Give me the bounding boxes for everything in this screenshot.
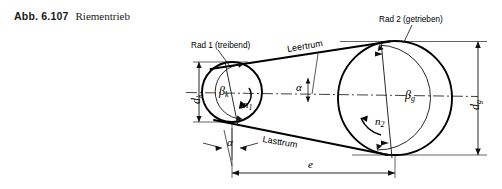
- label-beta-k: βk: [219, 84, 229, 99]
- small-pulley: [202, 62, 262, 126]
- label-dk: dk: [189, 94, 204, 104]
- label-n1: n1: [243, 98, 253, 112]
- dimension-dk: [196, 62, 201, 122]
- angle-alpha-top: [306, 54, 318, 102]
- dimension-e: [232, 170, 395, 175]
- belt-spans: [211, 42, 391, 156]
- label-dg: dg: [468, 100, 483, 110]
- label-alpha-top: α: [296, 81, 302, 93]
- belt-drive-diagram: [0, 0, 502, 189]
- large-pulley: [338, 41, 452, 158]
- figure-page: Abb. 6.107Riementrieb: [0, 0, 502, 189]
- belt-tight-span: [214, 120, 388, 155]
- label-center-distance: e: [308, 158, 313, 170]
- label-alpha-bottom: α: [227, 136, 233, 148]
- label-n2: n2: [375, 115, 385, 129]
- dimension-dg: [475, 42, 481, 156]
- callout-wheel2: Rad 2 (getrieben): [379, 15, 443, 24]
- callout-wheel1: Rad 1 (treibend): [191, 41, 250, 50]
- centerline: [186, 93, 478, 97]
- label-beta-g: βg: [405, 88, 415, 103]
